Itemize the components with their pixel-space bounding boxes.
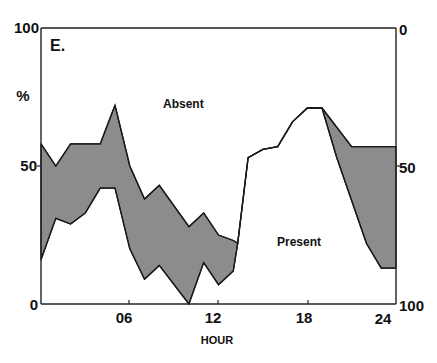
y-left-tick-50: 50: [20, 157, 37, 174]
x-tick-18: 18: [296, 309, 313, 326]
y-left-tick-0: 0: [30, 296, 38, 313]
present-region-label: Present: [277, 235, 321, 249]
y-left-tick-100: 100: [14, 19, 39, 36]
x-tick-12: 12: [205, 309, 222, 326]
y-right-tick-100: 100: [399, 297, 424, 314]
x-tick-24: 24: [375, 310, 392, 327]
panel-label: E.: [50, 37, 65, 54]
y-right-tick-0: 0: [399, 21, 407, 38]
x-tick-06: 06: [116, 309, 133, 326]
absent-region-label: Absent: [163, 97, 204, 111]
x-axis-title: HOUR: [201, 334, 233, 346]
chart-canvas: 100 50 0 % 0 50 100 06 12 18 24 HOUR E. …: [0, 0, 437, 363]
y-axis-unit-label: %: [16, 87, 29, 104]
y-right-tick-50: 50: [399, 159, 416, 176]
